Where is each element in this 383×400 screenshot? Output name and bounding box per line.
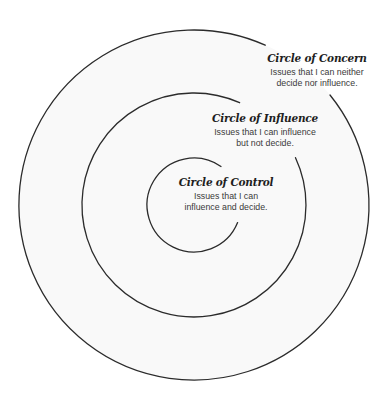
circle-of-influence-label: Circle of Influence Issues that I can in… bbox=[200, 112, 330, 149]
circle-of-influence-title: Circle of Influence bbox=[200, 112, 330, 124]
circle-of-concern-label: Circle of Concern Issues that I can neit… bbox=[252, 52, 382, 89]
circle-of-control-desc-line1: Issues that I can bbox=[170, 191, 282, 202]
circle-of-concern-title: Circle of Concern bbox=[252, 52, 382, 64]
circle-of-control-desc-line2: influence and decide. bbox=[170, 202, 282, 213]
circles-of-control-diagram: Circle of Concern Issues that I can neit… bbox=[0, 0, 383, 400]
circle-of-influence-desc-line2: but not decide. bbox=[200, 138, 330, 149]
circle-of-influence-desc-line1: Issues that I can influence bbox=[200, 127, 330, 138]
circle-of-concern-desc-line1: Issues that I can neither bbox=[252, 67, 382, 78]
circle-of-control-title: Circle of Control bbox=[170, 176, 282, 188]
circle-of-control-label: Circle of Control Issues that I can infl… bbox=[170, 176, 282, 213]
circle-of-concern-desc-line2: decide nor influence. bbox=[252, 78, 382, 89]
